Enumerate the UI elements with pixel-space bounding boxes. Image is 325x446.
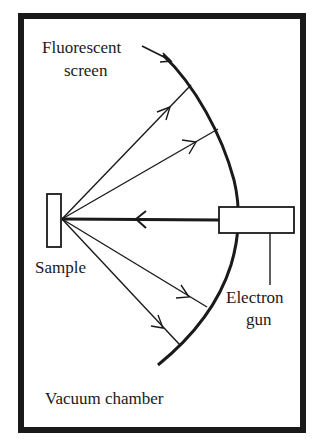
sample-block — [47, 194, 61, 247]
sample-label: Sample — [35, 258, 86, 277]
gun-label-line1: Electron — [226, 288, 284, 307]
screen-label-pointer — [142, 46, 170, 60]
chamber-label: Vacuum chamber — [45, 389, 164, 408]
gun-label-line2: gun — [246, 310, 272, 329]
ray-1 — [62, 85, 191, 219]
incident-beam — [62, 219, 219, 220]
diagram-canvas: Fluorescent screen Sample Electron gun V… — [0, 0, 325, 446]
electron-gun-body — [219, 207, 294, 233]
ray-2-arrowhead — [182, 140, 196, 154]
screen-label-line2: screen — [64, 61, 108, 80]
screen-label-line1: Fluorescent — [42, 38, 122, 57]
